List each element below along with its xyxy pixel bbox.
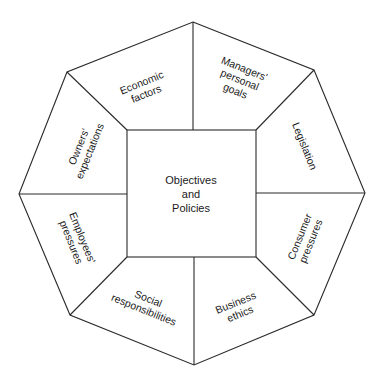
- spoke-bottom-left: [70, 257, 127, 315]
- segment-label-line: Legislation: [290, 120, 320, 171]
- segment-business-ethics: Business ethics: [214, 289, 262, 327]
- segment-managers-personal-goals: Managers' personal goals: [211, 54, 270, 106]
- spoke-bottom-right: [256, 257, 314, 315]
- segment-legislation: Legislation: [290, 120, 320, 171]
- center-label-line-3: Policies: [172, 202, 210, 214]
- segment-employees-pressures: Employees' pressures: [56, 210, 98, 269]
- center-label: Objectives and Policies: [165, 174, 217, 214]
- center-label-line-1: Objectives: [165, 174, 217, 186]
- segment-owners-expectations: Owners' expectations: [62, 117, 106, 181]
- segment-economic-factors: Economic factors: [118, 68, 170, 108]
- segment-social-responsibilities: Social responsibilities: [110, 280, 183, 328]
- segment-consumer-pressures: Consumer pressures: [285, 211, 326, 265]
- influence-octagon-diagram: Objectives and Policies Economic factors…: [0, 0, 381, 380]
- center-label-line-2: and: [182, 188, 200, 200]
- spoke-top-left: [67, 72, 127, 130]
